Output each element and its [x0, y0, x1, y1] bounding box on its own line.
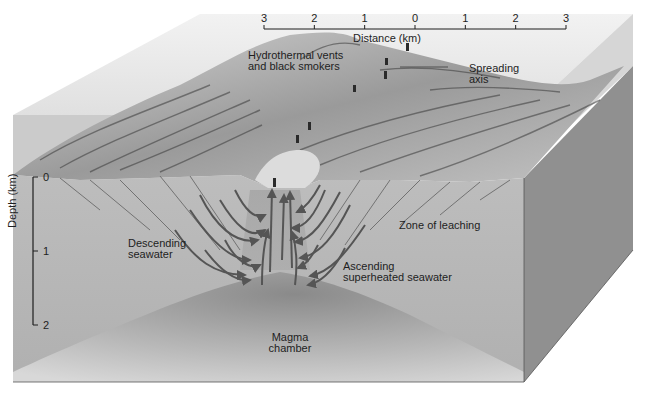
- distance-tick-label: 3: [261, 12, 267, 24]
- distance-tick-label: 2: [513, 12, 519, 24]
- distance-tick-label: 0: [412, 12, 418, 24]
- spreading-axis-label-line2: axis: [469, 73, 489, 85]
- depth-tick-label: 1: [43, 245, 49, 257]
- zone-of-leaching-label: Zone of leaching: [399, 219, 480, 231]
- descending-seawater-label-line2: seawater: [128, 248, 173, 260]
- depth-axis-label: Depth (km): [6, 174, 18, 228]
- distance-tick-label: 1: [462, 12, 468, 24]
- vent-icon: [385, 58, 388, 65]
- vents-label-line2: and black smokers: [248, 60, 340, 72]
- ascending-seawater-label-line2: superheated seawater: [343, 271, 452, 283]
- depth-tick-label: 0: [43, 171, 49, 183]
- distance-tick-label: 3: [563, 12, 569, 24]
- vent-icon: [406, 43, 409, 51]
- vent-icon: [273, 178, 276, 187]
- vent-icon: [296, 135, 299, 143]
- distance-axis-label: Distance (km): [353, 32, 421, 44]
- magma-chamber-label-line2: chamber: [260, 342, 320, 354]
- vent-icon: [308, 122, 311, 130]
- distance-tick-label: 1: [362, 12, 368, 24]
- distance-tick-label: 2: [311, 12, 317, 24]
- depth-tick-label: 2: [43, 319, 49, 331]
- vent-icon: [384, 71, 387, 79]
- upflow-zone: [240, 190, 310, 270]
- vent-icon: [353, 85, 356, 92]
